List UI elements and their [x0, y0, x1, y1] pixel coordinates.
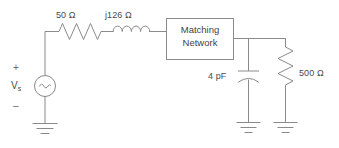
resistor-50ohm-label: 50 Ω	[56, 10, 76, 21]
capacitor-4pf-label: 4 pF	[208, 71, 226, 82]
source-plus-sign: +	[13, 62, 19, 73]
resistor-50ohm-symbol	[55, 24, 105, 40]
circuit-diagram-canvas: 50 Ω j126 Ω Matching Network 4 pF 500 Ω …	[0, 0, 339, 148]
load-resistor-500ohm-label: 500 Ω	[299, 68, 324, 79]
ac-source-symbol	[35, 76, 56, 97]
inductor-j126-label: j126 Ω	[105, 10, 132, 21]
schematic-drawing	[0, 0, 339, 148]
wire-source-to-resistor	[45, 32, 55, 76]
source-label: Vs	[11, 80, 21, 94]
matching-network-label-line1: Matching	[166, 24, 234, 36]
source-label-main: V	[11, 80, 18, 91]
source-label-subscript: s	[18, 85, 22, 92]
inductor-j126-symbol	[113, 26, 150, 31]
resistor-500ohm-symbol	[278, 39, 293, 123]
matching-network-label-line2: Network	[166, 37, 234, 49]
source-minus-sign: –	[13, 100, 19, 111]
